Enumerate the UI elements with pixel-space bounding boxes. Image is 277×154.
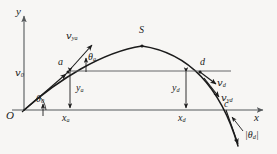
vd-subscript: d	[223, 81, 226, 88]
v0-label: v0	[15, 68, 24, 79]
theta0-subscript: 0	[41, 97, 44, 104]
v0-symbol: v	[15, 67, 21, 78]
xa-label: xa	[62, 113, 70, 124]
vd-symbol: v	[217, 77, 223, 88]
xd-label: xd	[178, 113, 186, 124]
ya-label: ya	[76, 83, 84, 94]
y-axis-label: y	[16, 6, 21, 17]
vyd-symbol: v	[221, 92, 227, 103]
yd-symbol: y	[172, 82, 176, 93]
projectile-motion-figure: y x O a S d c v0 vya vd vyd θ0 θa |θd| x…	[0, 0, 277, 154]
origin-label: O	[6, 110, 14, 121]
x-axis-label: x	[254, 112, 259, 123]
vya-subscript: ya	[72, 34, 78, 41]
xa-subscript: a	[67, 116, 70, 123]
theta-d-wedge-side	[226, 110, 238, 144]
v0-vector	[22, 74, 66, 112]
xd-subscript: d	[183, 116, 186, 123]
point-apex-marker	[140, 44, 143, 47]
point-apex-label: S	[139, 25, 144, 35]
vya-label: vya	[66, 31, 78, 42]
xa-symbol: x	[62, 112, 66, 123]
theta-d-suffix: |	[256, 129, 259, 140]
vd-label: vd	[217, 78, 226, 89]
trajectory-curve	[24, 46, 238, 146]
point-d-label: d	[200, 57, 205, 67]
theta-d-abs-label: |θd|	[245, 130, 259, 141]
point-a-label: a	[58, 57, 63, 67]
theta-a-subscript: a	[93, 55, 96, 62]
theta-d-symbol: |θ	[245, 129, 253, 140]
theta-a-label: θa	[88, 52, 96, 63]
vya-symbol: v	[66, 30, 72, 41]
ya-subscript: a	[81, 86, 84, 93]
theta0-label: θ0	[36, 94, 44, 105]
vyd-label: vyd	[221, 93, 233, 104]
v0-subscript: 0	[21, 71, 24, 78]
yd-label: yd	[172, 83, 180, 94]
point-a-marker	[67, 71, 70, 74]
ya-symbol: y	[76, 82, 80, 93]
yd-subscript: d	[177, 86, 180, 93]
theta-d-angle-pointer	[232, 117, 243, 131]
xd-symbol: x	[178, 112, 182, 123]
vyd-subscript: yd	[227, 96, 233, 103]
